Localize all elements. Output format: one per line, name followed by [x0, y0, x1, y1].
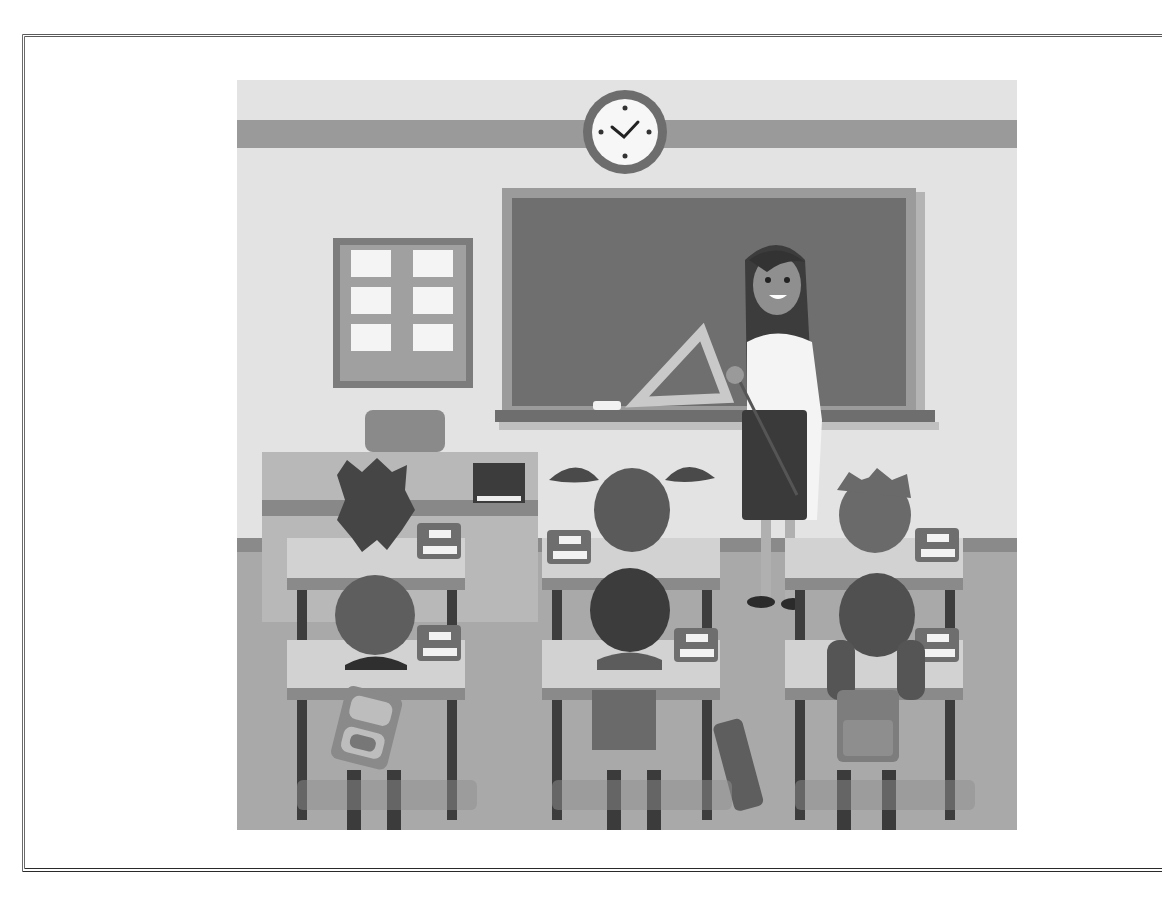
teacher-chair	[365, 410, 445, 452]
bulletin-board	[333, 238, 473, 388]
classroom-illustration	[237, 80, 1017, 830]
chalkboard	[495, 188, 939, 430]
wall-clock-icon	[583, 90, 667, 174]
